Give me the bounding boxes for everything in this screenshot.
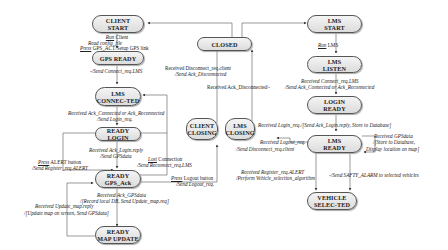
send-reconnect: /Send Reconnect_req.LMS xyxy=(137,162,192,168)
label-send-connect: -/Send Connect_req.LMS xyxy=(90,68,142,74)
received-logout: Received Logout_req. xyxy=(260,139,305,145)
state-gps-ready: GPS READY xyxy=(92,51,144,65)
state-lms-listen: LMS LISTEN xyxy=(307,56,362,73)
received-ack-disconnected: Received Ack_Disconnected/- xyxy=(207,84,270,90)
update-map-screen: /[Update map on screen, Send GPSdata] xyxy=(24,210,109,216)
label-received-update-map: Received Update_map.reply xyxy=(35,203,94,209)
send-register: /Send Register_req.ALERT xyxy=(32,165,88,171)
state-lms-connected: LMS CONNEC-TED xyxy=(95,87,141,106)
label-store-db: /[Store to Database, xyxy=(373,139,415,145)
label-received-ack-disconnected: Received Ack_Disconnected/- xyxy=(207,84,270,90)
display-location: Display location on map] xyxy=(366,146,419,152)
label-received-logout: Received Logout_req. xyxy=(260,139,305,145)
lms: LMS xyxy=(326,42,338,48)
state-ready-map-update: READY MAP UPDATE xyxy=(95,226,141,244)
label-update-map-screen: /[Update map on screen, Send GPSdata] xyxy=(24,210,109,216)
label-send-ack-connected: /Send Ack_Connected or Ack_Reconnected xyxy=(285,84,374,90)
label-send-login: /Send Login_req. xyxy=(97,116,133,122)
send-ack-disconnected: /Send Ack_Disconnected xyxy=(175,71,226,77)
label-send-safty-alarm: -/Send SAFTY_ALARM to selected vehicles xyxy=(329,172,419,178)
label-perform-vehicle-selection: /Perform Vehicle_selection_algorithm xyxy=(236,175,315,181)
label-run-lms: Run LMS xyxy=(318,42,338,48)
state-lms-ready: LMS READY xyxy=(307,135,362,153)
send-ack-connected: /Send Ack_Connected or Ack_Reconnected xyxy=(285,84,374,90)
perform-vehicle-selection: /Perform Vehicle_selection_algorithm xyxy=(236,175,315,181)
store-db: /[Store to Database, xyxy=(373,139,415,145)
label-press-gps: Press GPS_ACT/Setup GPS link xyxy=(80,45,149,51)
state-client-closing: CLIENT CLOSING xyxy=(186,118,218,140)
send-connect: -/Send Connect_req.LMS xyxy=(90,68,142,74)
send-gpsdata: /Send GPSdata xyxy=(100,153,132,159)
label-send-gpsdata: /Send GPSdata xyxy=(100,153,132,159)
send-logout: /Send Logout_req. xyxy=(176,181,214,187)
send-disconnect-client: /Send Disconnect_req.client xyxy=(236,146,294,152)
state-lms-closing: LMS CLOSING xyxy=(225,118,255,140)
state-closed: CLOSED xyxy=(197,37,252,51)
label-send-ack-disconnected: /Send Ack_Disconnected xyxy=(175,71,226,77)
send-login: /Send Login_req. xyxy=(97,116,133,122)
state-vehicle-selected: VEHICLE SELEC-TED xyxy=(307,192,357,210)
received-update-map: Received Update_map.reply xyxy=(35,203,94,209)
received-login-req: Received Login_req./[Send Ack_Login.repl… xyxy=(258,122,391,128)
label-send-reconnect: /Send Reconnect_req.LMS xyxy=(137,162,192,168)
gps-act: GPS_ACT/Setup GPS link xyxy=(91,45,148,51)
state-ready-gps-ack: READY GPS_Ack xyxy=(95,170,141,188)
label-send-logout: /Send Logout_req. xyxy=(176,181,214,187)
label-send-disconnect-client: /Send Disconnect_req.client xyxy=(236,146,294,152)
label-display-location: Display location on map] xyxy=(366,146,419,152)
state-ready-login: READY LOGIN xyxy=(95,127,141,141)
send-safty-alarm: -/Send SAFTY_ALARM to selected vehicles xyxy=(329,172,419,178)
state-login-ready: LOGIN READY xyxy=(307,96,362,114)
label-received-login-req: Received Login_req./[Send Ack_Login.repl… xyxy=(258,122,391,128)
state-client-start: CLIENT START xyxy=(92,15,144,33)
state-lms-start: LMS START xyxy=(307,15,362,33)
label-send-register: /Send Register_req.ALERT xyxy=(32,165,88,171)
press: Press xyxy=(80,45,91,51)
